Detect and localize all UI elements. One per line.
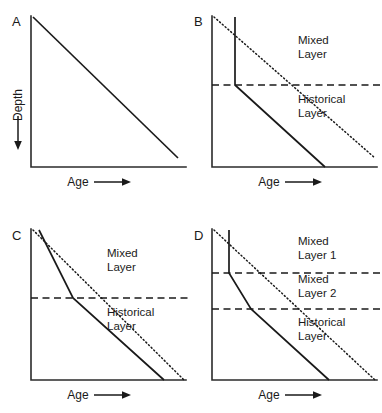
age-arrow-icon <box>285 391 322 399</box>
panel-c: C Mixed Layer Historical Layer Age <box>0 207 191 413</box>
panel-a-age-profile-line <box>33 17 178 158</box>
panel-d-historical-layer-label-line2: Layer <box>298 330 327 342</box>
panel-b-x-axis-label: Age <box>258 175 280 189</box>
panel-c-mixed-layer-label-line2: Layer <box>107 261 136 273</box>
panel-a-x-axis-label: Age <box>67 175 89 189</box>
age-arrow-icon <box>285 178 322 186</box>
panel-b-mixed-layer-label-line2: Layer <box>298 48 327 60</box>
panel-c-historical-layer-label-line2: Layer <box>107 320 136 332</box>
panel-c-apparent-age-profile-line <box>39 230 164 380</box>
panel-letter-a: A <box>12 14 21 29</box>
panel-d-true-age-reference-line <box>214 230 375 380</box>
figure-container: A Depth Age B <box>0 0 382 413</box>
panel-c-historical-layer-label-line1: Historical <box>107 306 154 318</box>
panel-d-axes <box>212 229 377 380</box>
age-arrow-icon <box>94 391 131 399</box>
panel-c-mixed-layer-label-line1: Mixed <box>107 247 138 259</box>
panel-b-historical-layer-label-line1: Historical <box>298 93 345 105</box>
panel-letter-c: C <box>12 228 21 243</box>
panel-d-mixed-layer-2-label-line1: Mixed <box>298 273 329 285</box>
panel-b-mixed-layer-label-line1: Mixed <box>298 34 329 46</box>
panel-d-mixed-layer-2-label-line2: Layer 2 <box>298 287 336 299</box>
panel-d-mixed-layer-1-label-line1: Mixed <box>298 235 329 247</box>
panel-d-x-axis-label: Age <box>258 388 280 402</box>
panel-letter-b: B <box>194 14 203 29</box>
panel-d-mixed-layer-1-label-line2: Layer 1 <box>298 249 336 261</box>
panel-d: D Mixed Layer 1 Mixed Layer 2 Historical… <box>191 207 382 413</box>
age-arrow-icon <box>94 178 131 186</box>
panel-c-x-axis-label: Age <box>67 388 89 402</box>
panel-b: B Mixed Layer Historical Layer Age <box>191 0 382 206</box>
panel-a: A Depth Age <box>0 0 191 206</box>
panel-letter-d: D <box>194 228 203 243</box>
panel-b-historical-layer-label-line2: Layer <box>298 107 327 119</box>
panel-b-axes <box>212 16 377 167</box>
panel-d-historical-layer-label-line1: Historical <box>298 316 345 328</box>
